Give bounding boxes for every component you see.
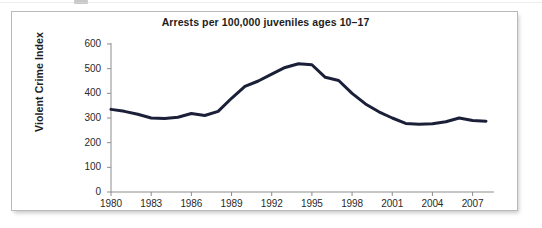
y-tick-label: 600 — [67, 38, 101, 49]
x-tick-label: 1983 — [131, 198, 171, 209]
y-tick-label: 500 — [67, 63, 101, 74]
y-tick-label: 400 — [67, 87, 101, 98]
y-tick-label: 100 — [67, 161, 101, 172]
x-tick-label: 2001 — [372, 198, 412, 209]
x-tick-label: 1980 — [91, 198, 131, 209]
x-tick-label: 1989 — [212, 198, 252, 209]
violent-crime-index-series — [111, 64, 486, 124]
x-tick-label: 1998 — [332, 198, 372, 209]
y-tick-label: 0 — [67, 186, 101, 197]
x-tick-label: 2007 — [453, 198, 493, 209]
x-tick-label: 1992 — [252, 198, 292, 209]
page-crop-rule — [0, 2, 542, 3]
x-tick-label: 1986 — [171, 198, 211, 209]
x-tick-label: 1995 — [292, 198, 332, 209]
y-tick-label: 300 — [67, 112, 101, 123]
plot-area: Violent Crime Index 0100200300400500600 … — [12, 12, 519, 210]
x-tick-label: 2004 — [412, 198, 452, 209]
y-tick-label: 200 — [67, 137, 101, 148]
figure-page: Arrests per 100,000 juveniles ages 10–17… — [0, 0, 542, 228]
chart-figure: Arrests per 100,000 juveniles ages 10–17… — [11, 11, 518, 211]
